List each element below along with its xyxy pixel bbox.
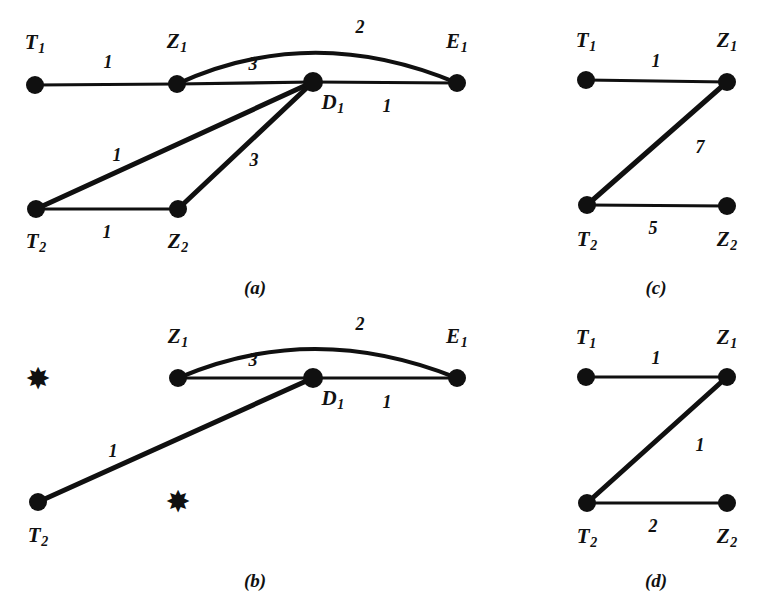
panel-a-node-label-E1: E1 <box>446 31 468 55</box>
panel-d-node-subscript-Z1: 1 <box>730 336 737 351</box>
panel-b-node-E1 <box>448 369 466 387</box>
panel-b-weight-T2-D1: 1 <box>109 442 118 460</box>
panel-a-node-label-D1: D1 <box>321 92 344 116</box>
panel-c-edge-T2-Z2 <box>587 205 727 206</box>
panel-b-node-D1 <box>303 368 323 388</box>
panel-d-node-label-Z2: Z2 <box>717 526 738 550</box>
panel-b-node-label-Z1: Z1 <box>168 326 189 350</box>
panel-a-weight-D1-E1: 1 <box>383 97 392 115</box>
panel-b-weight-Z1-E1: 2 <box>356 315 365 333</box>
panel-a-weight-T1-Z1: 1 <box>104 53 113 71</box>
panel-a-weight-Z2-D1: 3 <box>250 151 259 169</box>
panel-d-node-subscript-T1: 1 <box>589 336 596 351</box>
panel-c-weight-Z1-T2: 7 <box>696 138 705 156</box>
panel-b-node-label-E1: E1 <box>446 326 468 350</box>
panel-a-node-label-T2: T2 <box>26 231 47 255</box>
panel-a-node-subscript-D1: 1 <box>337 101 344 116</box>
panel-b-node-Z1 <box>169 369 187 387</box>
panel-a-edge-D1-E1 <box>313 82 457 83</box>
panel-b-weight-D1-E1: 1 <box>383 393 392 411</box>
panel-b-node-subscript-D1: 1 <box>337 397 344 412</box>
panel-c-weight-T2-Z2: 5 <box>649 219 658 237</box>
panel-a-node-E1 <box>448 74 466 92</box>
figure-root: T1Z1D1E1T2Z21321113(a)✸Z1D1E1T2✸3211(b)T… <box>0 0 762 616</box>
panel-c-node-label-Z2: Z2 <box>717 229 738 253</box>
panel-b-node-subscript-E1: 1 <box>461 335 468 350</box>
panel-c-node-subscript-Z1: 1 <box>730 39 737 54</box>
panel-d-node-Z1 <box>718 368 736 386</box>
panel-b-node-subscript-T2: 2 <box>41 534 48 549</box>
panel-caption-b: (b) <box>244 571 266 590</box>
panel-b-node-label-T2: T2 <box>28 525 49 549</box>
panel-a-node-subscript-E1: 1 <box>461 40 468 55</box>
panel-c-node-T2 <box>578 196 596 214</box>
panel-b-node-label-D1: D1 <box>321 388 344 412</box>
panel-d-node-T1 <box>577 368 595 386</box>
panel-a-node-subscript-T2: 2 <box>39 240 46 255</box>
panel-d-node-label-Z1: Z1 <box>717 327 738 351</box>
panel-c-edge-T1-Z1 <box>586 80 727 82</box>
panel-d-weight-T1-Z1: 1 <box>652 349 661 367</box>
panel-a-edge-Z2-D1 <box>178 82 313 209</box>
panel-d-node-label-T2: T2 <box>577 526 598 550</box>
panel-c-node-label-T1: T1 <box>576 30 597 54</box>
panel-a-node-label-T1: T1 <box>25 32 46 56</box>
panel-d-node-label-T1: T1 <box>576 327 597 351</box>
panel-d-node-subscript-Z2: 2 <box>730 535 737 550</box>
panel-c-node-label-T2: T2 <box>577 229 598 253</box>
panel-a-weight-Z1-D1: 3 <box>249 55 258 73</box>
panel-c-edge-Z1-T2 <box>587 82 727 205</box>
panel-a-node-Z2 <box>169 200 187 218</box>
panel-a-weight-T2-Z2: 1 <box>103 223 112 241</box>
panel-a-node-subscript-Z2: 2 <box>181 240 188 255</box>
panel-caption-d: (d) <box>645 571 667 590</box>
panel-a-edge-T2-D1 <box>36 82 313 209</box>
panel-d-edge-Z1-T2 <box>587 377 727 503</box>
panel-a-node-Z1 <box>168 75 186 93</box>
panel-d-node-subscript-T2: 2 <box>590 535 597 550</box>
panel-c-node-Z2 <box>718 197 736 215</box>
panel-a-node-label-Z1: Z1 <box>167 31 188 55</box>
panel-b-removed-node-marker: ✸ <box>165 487 190 517</box>
panel-d-weight-T2-Z2: 2 <box>649 517 658 535</box>
panel-a-node-subscript-T1: 1 <box>38 41 45 56</box>
panel-b-node-subscript-Z1: 1 <box>181 335 188 350</box>
panel-c-weight-T1-Z1: 1 <box>652 52 661 70</box>
panel-d-node-Z2 <box>718 494 736 512</box>
panel-c-node-subscript-Z2: 2 <box>730 238 737 253</box>
panel-c-node-Z1 <box>718 73 736 91</box>
panel-d-node-T2 <box>578 494 596 512</box>
panel-a-weight-T2-D1: 1 <box>113 146 122 164</box>
panel-a-edge-T1-Z1 <box>35 84 177 85</box>
panel-a-edge-Z1-D1 <box>177 82 313 84</box>
panel-b-removed-node-marker: ✸ <box>25 364 50 394</box>
panel-b-node-T2 <box>29 493 47 511</box>
panel-caption-c: (c) <box>645 278 666 297</box>
panel-a-node-D1 <box>303 72 323 92</box>
panel-b-weight-Z1-D1: 3 <box>249 351 258 369</box>
panel-c-node-subscript-T2: 2 <box>590 238 597 253</box>
panel-c-node-T1 <box>577 71 595 89</box>
panel-a-node-T2 <box>27 200 45 218</box>
panel-c-node-label-Z1: Z1 <box>717 30 738 54</box>
panel-d-weight-Z1-T2: 1 <box>696 436 705 454</box>
panel-a-node-subscript-Z1: 1 <box>180 40 187 55</box>
panel-caption-a: (a) <box>244 278 266 297</box>
panel-a-weight-Z1-E1: 2 <box>356 18 365 36</box>
panel-a-node-T1 <box>26 76 44 94</box>
panel-a-node-label-Z2: Z2 <box>168 231 189 255</box>
panel-c-node-subscript-T1: 1 <box>589 39 596 54</box>
